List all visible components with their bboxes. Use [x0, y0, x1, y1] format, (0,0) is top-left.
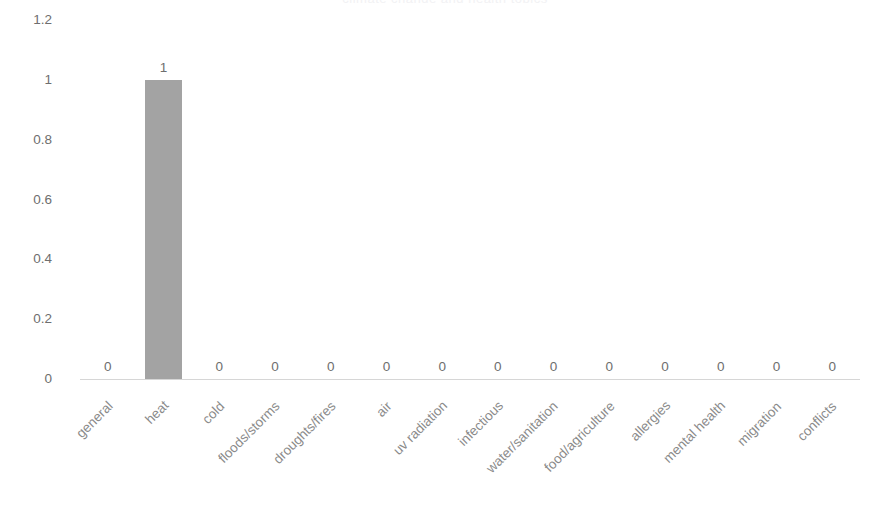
bar-value-label: 0 — [717, 360, 725, 374]
bar-value-label: 0 — [773, 360, 781, 374]
x-axis-label-heat: heat — [143, 399, 171, 427]
x-axis-category-labels: generalheatcoldfloods/stormsdroughts/fir… — [0, 0, 890, 528]
x-axis-label-infectious: infectious — [456, 399, 506, 449]
x-axis-label-uv-radiation: uv radiation — [391, 399, 450, 458]
bar-value-label: 0 — [271, 360, 279, 374]
x-axis-label-cold: cold — [200, 399, 227, 426]
bar-value-label: 1 — [160, 61, 168, 75]
x-axis-label-conflicts: conflicts — [795, 399, 839, 443]
bar-value-label: 0 — [216, 360, 224, 374]
bar-value-label: 0 — [550, 360, 558, 374]
bar-value-label: 0 — [661, 360, 669, 374]
x-axis-label-allergies: allergies — [628, 399, 673, 444]
bar-chart: climate change and health topics 00.20.4… — [0, 0, 890, 528]
bar-value-label: 0 — [383, 360, 391, 374]
x-axis-label-air: air — [374, 399, 394, 419]
bar-value-label: 0 — [327, 360, 335, 374]
bar-value-label: 0 — [828, 360, 836, 374]
bar-value-label: 0 — [438, 360, 446, 374]
bar-value-label: 0 — [606, 360, 614, 374]
x-axis-label-general: general — [74, 399, 115, 440]
bar-value-label: 0 — [494, 360, 502, 374]
x-axis-label-migration: migration — [735, 399, 784, 448]
bar-value-label: 0 — [104, 360, 112, 374]
